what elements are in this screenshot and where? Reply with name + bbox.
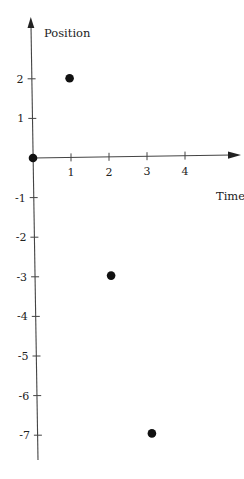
y-tick-label: 2 bbox=[17, 73, 24, 86]
x-tick-label: 1 bbox=[68, 166, 75, 179]
x-axis-arrow-icon bbox=[228, 152, 241, 159]
y-tick-label: -6 bbox=[18, 390, 29, 403]
data-point bbox=[107, 271, 116, 280]
y-tick-label: -1 bbox=[15, 192, 26, 205]
x-tick-label: 2 bbox=[106, 166, 113, 179]
x-axis-label: Time bbox=[216, 189, 244, 203]
x-axis bbox=[33, 155, 232, 158]
y-tick-label: -4 bbox=[17, 310, 28, 323]
y-tick-label: -2 bbox=[16, 231, 27, 244]
scatter-chart: 1234 21-1-2-3-4-5-6-7 Position Time bbox=[0, 0, 244, 479]
y-axis-arrow-icon bbox=[28, 17, 35, 28]
y-axis bbox=[31, 26, 38, 460]
x-tick-label: 3 bbox=[144, 165, 151, 178]
x-tick-label: 4 bbox=[182, 165, 189, 178]
data-point bbox=[65, 74, 74, 83]
data-points bbox=[29, 74, 157, 438]
y-tick-label: -5 bbox=[18, 350, 29, 363]
y-tick-label: -7 bbox=[19, 429, 30, 442]
y-ticks: 21-1-2-3-4-5-6-7 bbox=[15, 73, 42, 442]
data-point bbox=[148, 429, 157, 438]
y-tick-label: -3 bbox=[16, 271, 27, 284]
y-axis-label: Position bbox=[44, 26, 91, 40]
data-point bbox=[29, 154, 38, 163]
y-tick-label: 1 bbox=[17, 112, 24, 125]
